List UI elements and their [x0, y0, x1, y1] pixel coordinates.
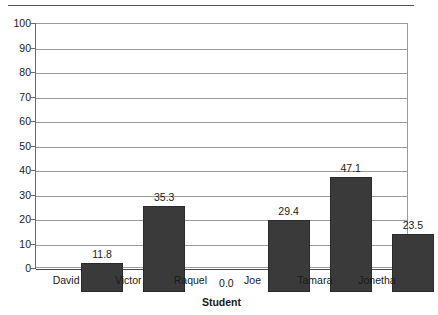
y-axis-tick-label: 30 [1, 189, 31, 200]
y-axis-tick-label: 40 [1, 165, 31, 176]
bars-layer: 11.835.30.029.447.123.5 [71, 47, 438, 292]
bar-value-label: 29.4 [278, 205, 298, 217]
y-axis-tick-label: 0 [1, 263, 31, 274]
x-axis-category-label: Joe [222, 274, 284, 287]
y-axis-tick-label: 20 [1, 214, 31, 225]
bar-slot: 35.3 [133, 47, 195, 292]
bar-slot: 23.5 [382, 47, 438, 292]
y-axis-tick-mark [31, 72, 35, 73]
y-axis-tick-labels: 1009080706050403020100 [0, 0, 31, 315]
y-axis-tick-label: 50 [1, 140, 31, 151]
y-axis-tick-mark [31, 219, 35, 220]
y-axis-tick-label: 80 [1, 67, 31, 78]
bar-slot: 47.1 [320, 47, 382, 292]
x-axis-title: Student [35, 296, 408, 309]
y-axis-tick-mark [31, 146, 35, 147]
x-axis-category-label: Jonetha [346, 274, 408, 287]
x-axis-category-label: Raquel [159, 274, 221, 287]
bar-value-label: 47.1 [341, 162, 361, 174]
y-axis-tick-mark [31, 121, 35, 122]
bar-slot: 0.0 [195, 47, 257, 292]
bar-slot: 29.4 [258, 47, 320, 292]
y-axis-tick-mark [31, 170, 35, 171]
x-axis-category-label: Tamara [284, 274, 346, 287]
y-axis-tick-label: 10 [1, 238, 31, 249]
y-axis-tick-mark [31, 244, 35, 245]
bar-value-label: 35.3 [154, 191, 174, 203]
bar-value-label: 23.5 [403, 219, 423, 231]
y-axis-line [35, 23, 36, 269]
plot-area: 11.835.30.029.447.123.5 [35, 23, 408, 268]
y-axis-tick-mark [31, 48, 35, 49]
y-axis-tick-label: 70 [1, 91, 31, 102]
y-axis-tick-mark [31, 97, 35, 98]
y-axis-tick-label: 60 [1, 116, 31, 127]
bar-value-label: 11.8 [92, 248, 112, 260]
y-axis-tick-mark [31, 23, 35, 24]
y-axis-tick-label: 100 [1, 18, 31, 29]
y-axis-tick-mark [31, 268, 35, 269]
x-axis-category-label: David [35, 274, 97, 287]
x-axis-category-labels: DavidVictorRaquelJoeTamaraJonetha [35, 274, 408, 290]
x-axis-category-label: Victor [97, 274, 159, 287]
y-axis-tick-mark [31, 195, 35, 196]
y-axis-tick-label: 90 [1, 42, 31, 53]
bar-slot: 11.8 [71, 47, 133, 292]
